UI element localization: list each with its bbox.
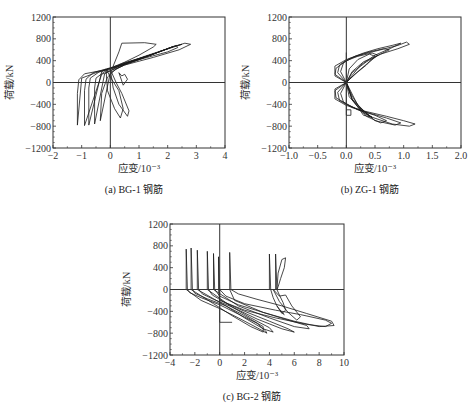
chart-bg1-rebar: −2−101234−1200−800−40004008001200应变/10⁻³… bbox=[4, 12, 228, 197]
y-tick-label: −1200 bbox=[261, 143, 287, 154]
x-axis-title: 应变/10⁻³ bbox=[354, 162, 396, 174]
y-tick-label: 400 bbox=[272, 55, 287, 66]
y-tick-label: 0 bbox=[46, 77, 51, 88]
x-tick-label: 10 bbox=[339, 357, 349, 368]
figure-canvas: −2−101234−1200−800−40004008001200应变/10⁻³… bbox=[0, 0, 474, 413]
hysteresis-curves bbox=[186, 248, 334, 333]
y-axis: −1200−800−40004008001200 bbox=[142, 219, 173, 361]
x-tick-label: 1 bbox=[137, 150, 142, 161]
x-tick-label: 2 bbox=[242, 357, 247, 368]
figure-caption: (c) BG-2 钢筋 bbox=[223, 390, 281, 403]
y-tick-label: −400 bbox=[147, 306, 168, 317]
y-tick-label: 800 bbox=[272, 33, 287, 44]
y-tick-label: −800 bbox=[30, 121, 51, 132]
hysteresis-curves bbox=[335, 42, 415, 126]
x-tick-label: 0 bbox=[108, 150, 113, 161]
chart-zg1-rebar: −1.0−0.50.00.51.01.52.0−1200−800−4000400… bbox=[240, 12, 467, 197]
y-tick-label: 1200 bbox=[148, 219, 168, 230]
y-tick-label: −800 bbox=[147, 328, 168, 339]
x-tick-label: −1 bbox=[76, 150, 87, 161]
y-tick-label: −1200 bbox=[25, 143, 51, 154]
x-tick-label: 8 bbox=[317, 357, 322, 368]
y-tick-label: −400 bbox=[266, 99, 287, 110]
x-axis: −1.0−0.50.00.51.01.52.0 bbox=[280, 145, 467, 161]
curve-spike-3 bbox=[197, 250, 273, 332]
x-axis-title: 应变/10⁻³ bbox=[118, 162, 160, 174]
y-tick-label: 1200 bbox=[267, 12, 287, 23]
y-tick-label: −400 bbox=[30, 99, 51, 110]
y-tick-label: 800 bbox=[153, 240, 168, 251]
y-tick-label: 0 bbox=[163, 284, 168, 295]
curve-loop-5 bbox=[89, 54, 154, 125]
y-tick-label: 0 bbox=[282, 77, 287, 88]
chart-bg2-rebar: −4−20246810−1200−800−40004008001200应变/10… bbox=[121, 219, 349, 404]
curve-spike-1 bbox=[186, 249, 267, 333]
y-tick-label: −1200 bbox=[142, 350, 168, 361]
x-tick-label: 1.0 bbox=[397, 150, 410, 161]
x-axis-title: 应变/10⁻³ bbox=[236, 369, 278, 381]
x-axis: −2−101234 bbox=[48, 145, 228, 161]
y-axis-title: 荷载/kN bbox=[4, 64, 15, 100]
x-tick-label: 0 bbox=[217, 357, 222, 368]
x-tick-label: 4 bbox=[267, 357, 272, 368]
curve-loop-1 bbox=[77, 45, 177, 125]
y-tick-label: 400 bbox=[153, 262, 168, 273]
x-tick-label: 2.0 bbox=[455, 150, 468, 161]
x-tick-label: 6 bbox=[292, 357, 297, 368]
curve-spike-2 bbox=[191, 248, 263, 332]
hysteresis-curves bbox=[77, 43, 190, 126]
y-tick-label: 800 bbox=[36, 33, 51, 44]
curve-small-hook bbox=[119, 73, 128, 86]
curve-loop-3 bbox=[95, 47, 174, 125]
x-axis: −4−20246810 bbox=[165, 352, 349, 368]
y-axis-title: 荷载/kN bbox=[121, 271, 132, 307]
y-axis: −1200−800−40004008001200 bbox=[261, 12, 292, 154]
figure-caption: (b) ZG-1 钢筋 bbox=[341, 183, 399, 196]
curve-spike-5 bbox=[214, 254, 310, 329]
y-axis: −1200−800−40004008001200 bbox=[25, 12, 56, 154]
y-axis-title: 荷载/kN bbox=[240, 64, 251, 100]
x-tick-label: −0.5 bbox=[309, 150, 327, 161]
x-tick-label: 2 bbox=[165, 150, 170, 161]
y-tick-label: 400 bbox=[36, 55, 51, 66]
x-tick-label: 3 bbox=[194, 150, 199, 161]
x-tick-label: 0.0 bbox=[340, 150, 353, 161]
y-tick-label: −800 bbox=[266, 121, 287, 132]
x-tick-label: 0.5 bbox=[369, 150, 382, 161]
figure-caption: (a) BG-1 钢筋 bbox=[105, 183, 163, 196]
x-tick-label: 1.5 bbox=[426, 150, 439, 161]
x-tick-label: 4 bbox=[223, 150, 228, 161]
curve-right-lobe bbox=[277, 258, 286, 290]
x-tick-label: −2 bbox=[190, 357, 201, 368]
y-tick-label: 1200 bbox=[31, 12, 51, 23]
